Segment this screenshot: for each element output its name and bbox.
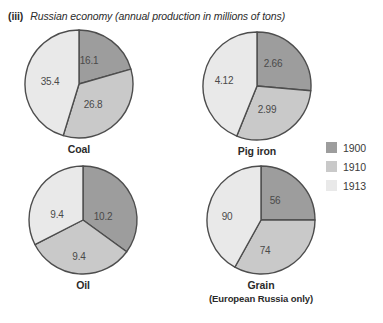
legend-label-1913: 1913	[343, 180, 366, 192]
legend-item-1910: 1910	[326, 157, 366, 176]
pie-canvas-grain: 567490	[205, 164, 317, 276]
legend-item-1900: 1900	[326, 138, 366, 157]
pie-value-oil-1913: 9.4	[50, 209, 63, 220]
pie-canvas-coal: 16.126.835.4	[23, 28, 135, 140]
pie-caption-coal-main: Coal	[68, 143, 90, 155]
legend-swatch-1910	[326, 161, 337, 172]
pie-chart-oil: 10.29.49.4 Oil	[18, 164, 148, 292]
pie-value-coal-1900: 16.1	[80, 55, 99, 66]
legend-item-1913: 1913	[326, 176, 366, 195]
pie-caption-grain-main: Grain	[248, 279, 275, 291]
legend-label-1910: 1910	[343, 161, 366, 173]
figure-number: (iii)	[8, 10, 23, 22]
pie-value-coal-1910: 26.8	[84, 99, 103, 110]
legend-swatch-1900	[326, 142, 337, 153]
pie-value-oil-1910: 9.4	[72, 251, 85, 262]
pie-value-pig-iron-1900: 2.66	[264, 58, 283, 69]
pie-caption-coal: Coal	[14, 143, 144, 156]
figure-russian-economy: (iii) Russian economy (annual production…	[0, 0, 383, 323]
pie-chart-grain: 567490 Grain (European Russia only)	[196, 164, 326, 305]
pie-value-oil-1900: 10.2	[94, 211, 113, 222]
pie-value-grain-1913: 90	[222, 211, 233, 222]
figure-title: (iii) Russian economy (annual production…	[8, 10, 285, 22]
pie-canvas-pig-iron: 2.662.994.12	[201, 30, 313, 142]
pie-caption-pig-iron: Pig iron	[192, 145, 322, 158]
pie-caption-grain: Grain (European Russia only)	[196, 279, 326, 305]
pie-pig-iron-graphic	[201, 30, 313, 142]
figure-title-text: Russian economy (annual production in mi…	[30, 10, 285, 22]
legend-swatch-1913	[326, 180, 337, 191]
pie-value-pig-iron-1910: 2.99	[258, 104, 277, 115]
pie-value-grain-1910: 74	[260, 245, 271, 256]
legend: 1900 1910 1913	[326, 138, 366, 195]
pie-caption-grain-sub: (European Russia only)	[196, 292, 326, 305]
pie-value-grain-1900: 56	[270, 195, 281, 206]
pie-caption-oil: Oil	[18, 279, 148, 292]
pie-value-coal-1913: 35.4	[41, 76, 60, 87]
pie-caption-pig-iron-main: Pig iron	[238, 145, 276, 157]
pie-chart-pig-iron: 2.662.994.12 Pig iron	[192, 30, 322, 158]
pie-chart-coal: 16.126.835.4 Coal	[14, 28, 144, 156]
pie-slice-grain-1900	[261, 166, 315, 220]
legend-label-1900: 1900	[343, 142, 366, 154]
pie-value-pig-iron-1913: 4.12	[215, 75, 234, 86]
pie-caption-oil-main: Oil	[76, 279, 90, 291]
pie-canvas-oil: 10.29.49.4	[27, 164, 139, 276]
